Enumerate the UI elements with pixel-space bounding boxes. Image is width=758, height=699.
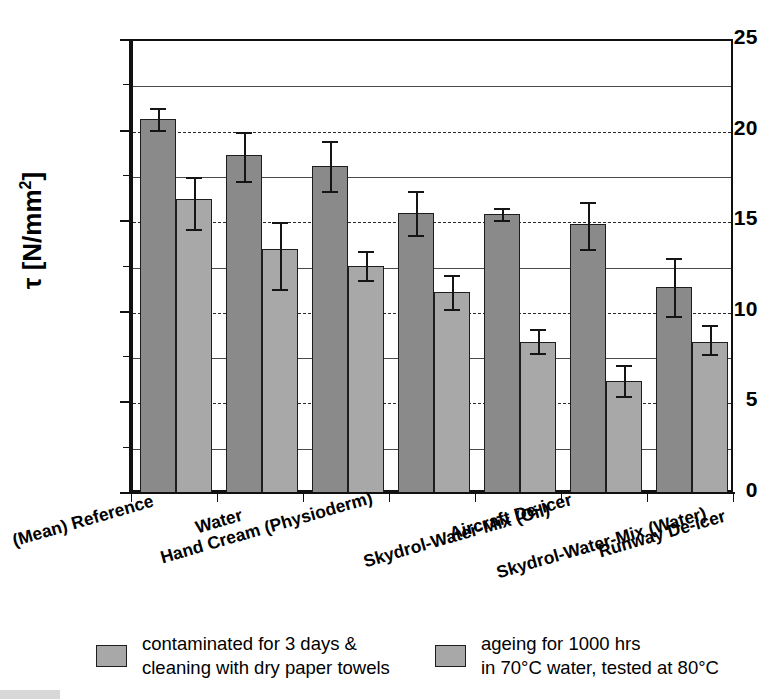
- error-bar-stem: [538, 329, 540, 353]
- bar: [692, 342, 728, 494]
- page-scan-edge: [0, 690, 60, 699]
- error-bar-cap-upper: [322, 141, 338, 143]
- x-tick: [733, 492, 734, 502]
- plot-area: [131, 39, 733, 492]
- error-bar-stem: [194, 177, 196, 230]
- error-bar-stem: [244, 132, 246, 181]
- x-tick: [647, 492, 648, 502]
- x-category-label: Hand Cream (Physioderm): [158, 487, 375, 568]
- error-bar-cap-lower: [322, 191, 338, 193]
- bar: [398, 213, 434, 494]
- y-tick-minor: [123, 266, 129, 267]
- error-bar-cap-lower: [580, 249, 596, 251]
- bar: [176, 199, 212, 494]
- error-bar-stem: [674, 258, 676, 316]
- legend-swatch-series-1: [435, 645, 466, 667]
- gridline-solid: [133, 177, 731, 178]
- y-tick-minor: [123, 447, 129, 448]
- gridline-solid: [133, 86, 731, 87]
- error-bar-cap-upper: [494, 208, 510, 210]
- error-bar-cap-lower: [702, 354, 718, 356]
- error-bar-cap-lower: [236, 181, 252, 183]
- bar: [312, 166, 348, 494]
- chart-legend: contaminated for 3 days & cleaning with …: [0, 620, 758, 690]
- y-tick-minor: [123, 84, 129, 85]
- bar: [434, 292, 470, 494]
- error-bar-cap-upper: [702, 325, 718, 327]
- error-bar-cap-lower: [358, 280, 374, 282]
- error-bar-stem: [588, 202, 590, 249]
- error-bar-cap-upper: [580, 202, 596, 204]
- y-tick-major: [120, 39, 129, 41]
- y-tick-major: [120, 311, 129, 313]
- error-bar-cap-upper: [408, 191, 424, 193]
- error-bar-cap-upper: [272, 222, 288, 224]
- x-tick: [303, 492, 304, 502]
- error-bar-cap-upper: [666, 258, 682, 260]
- bar: [484, 214, 520, 494]
- x-tick: [389, 492, 390, 502]
- bar: [226, 155, 262, 494]
- bar: [140, 119, 176, 494]
- y-tick-major: [120, 492, 129, 494]
- x-axis-line: [129, 492, 735, 494]
- y-axis-title: τ [N/mm2]: [17, 81, 48, 381]
- bar: [520, 342, 556, 494]
- x-tick: [217, 492, 218, 502]
- legend-label-series-0-line1: contaminated for 3 days &: [142, 633, 357, 654]
- error-bar-stem: [624, 365, 626, 396]
- legend-label-series-0: contaminated for 3 days & cleaning with …: [142, 632, 390, 679]
- y-tick-major: [120, 130, 129, 132]
- error-bar-cap-lower: [666, 316, 682, 318]
- error-bar-stem: [416, 191, 418, 234]
- error-bar-cap-upper: [186, 177, 202, 179]
- error-bar-cap-lower: [272, 289, 288, 291]
- error-bar-stem: [366, 251, 368, 280]
- error-bar-cap-lower: [530, 353, 546, 355]
- error-bar-cap-upper: [150, 108, 166, 110]
- legend-label-series-1-line1: ageing for 1000 hrs: [481, 633, 640, 654]
- error-bar-cap-upper: [530, 329, 546, 331]
- error-bar-cap-lower: [150, 130, 166, 132]
- bar-chart-figure: τ [N/mm2] 0510152025 (Mean) ReferenceWat…: [0, 0, 758, 699]
- bar: [348, 266, 384, 494]
- error-bar-cap-lower: [186, 229, 202, 231]
- error-bar-cap-lower: [444, 309, 460, 311]
- error-bar-stem: [280, 222, 282, 289]
- y-tick-minor: [123, 356, 129, 357]
- x-tick: [475, 492, 476, 502]
- error-bar-stem: [710, 325, 712, 354]
- error-bar-cap-lower: [494, 220, 510, 222]
- x-category-label: (Mean) Reference: [10, 491, 156, 551]
- error-bar-stem: [452, 275, 454, 309]
- y-tick-major: [120, 401, 129, 403]
- legend-label-series-1-line2: in 70°C water, tested at 80°C: [481, 657, 719, 678]
- legend-swatch-series-0: [96, 645, 127, 667]
- error-bar-cap-lower: [408, 235, 424, 237]
- legend-label-series-0-line2: cleaning with dry paper towels: [142, 657, 390, 678]
- error-bar-cap-upper: [358, 251, 374, 253]
- legend-label-series-1: ageing for 1000 hrs in 70°C water, teste…: [481, 632, 719, 679]
- gridline-dashed: [133, 132, 731, 133]
- error-bar-cap-lower: [616, 396, 632, 398]
- y-tick-minor: [123, 175, 129, 176]
- error-bar-cap-upper: [236, 132, 252, 134]
- bar: [570, 224, 606, 494]
- error-bar-stem: [158, 108, 160, 130]
- error-bar-stem: [330, 141, 332, 192]
- legend-entry-ageing: ageing for 1000 hrs in 70°C water, teste…: [435, 632, 719, 679]
- y-tick-major: [120, 220, 129, 222]
- error-bar-cap-upper: [444, 275, 460, 277]
- legend-entry-contaminated: contaminated for 3 days & cleaning with …: [96, 632, 390, 679]
- error-bar-cap-upper: [616, 365, 632, 367]
